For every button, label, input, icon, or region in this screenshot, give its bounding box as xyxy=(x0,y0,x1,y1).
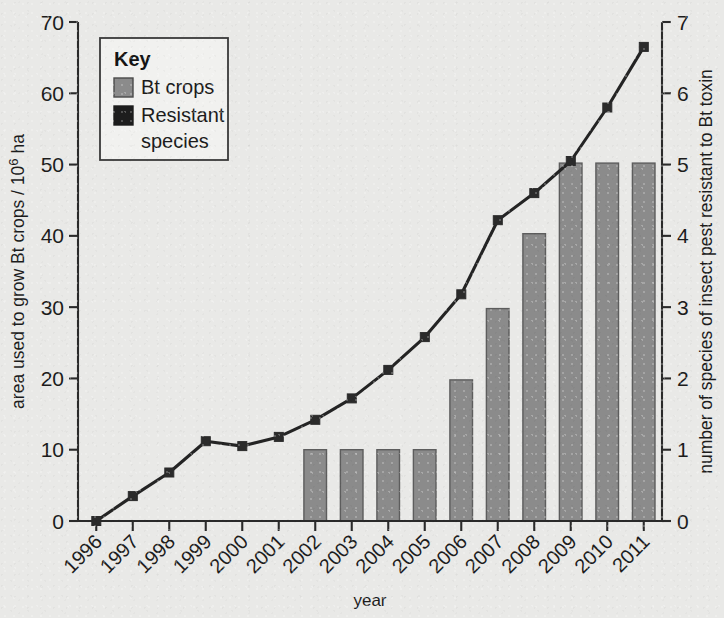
line-marker-2006 xyxy=(457,290,466,299)
x-tick-label-2002: 2002 xyxy=(278,530,325,577)
chart-figure: 0102030405060700123456719961997199819992… xyxy=(0,0,724,618)
bar-2010 xyxy=(596,163,619,521)
x-tick-label-2010: 2010 xyxy=(570,530,617,577)
x-tick-label-2000: 2000 xyxy=(205,530,252,577)
x-tick-label-2003: 2003 xyxy=(315,530,362,577)
y-tick-label-left-70: 70 xyxy=(41,11,64,34)
x-tick-label-1997: 1997 xyxy=(96,530,143,577)
line-marker-2003 xyxy=(347,394,356,403)
x-axis-title: year xyxy=(353,591,386,610)
line-marker-2001 xyxy=(274,432,283,441)
y-axis-right-title: number of species of insect pest resista… xyxy=(696,69,716,474)
x-tick-label-2004: 2004 xyxy=(351,530,398,577)
y-tick-label-left-30: 30 xyxy=(41,296,64,319)
y-tick-label-right-4: 4 xyxy=(677,224,689,247)
x-tick-label-2005: 2005 xyxy=(388,530,435,577)
y-tick-label-right-2: 2 xyxy=(677,367,689,390)
x-tick-label-1998: 1998 xyxy=(132,530,179,577)
y-tick-label-left-50: 50 xyxy=(41,153,64,176)
y-tick-label-left-60: 60 xyxy=(41,82,64,105)
line-marker-1996 xyxy=(92,517,101,526)
line-marker-2004 xyxy=(384,365,393,374)
grey-square-swatch-icon xyxy=(114,78,133,97)
line-marker-1998 xyxy=(165,468,174,477)
x-tick-label-2008: 2008 xyxy=(497,530,544,577)
legend-label-resistant-species-line2: species xyxy=(141,130,209,152)
bar-2006 xyxy=(450,380,473,521)
line-marker-1997 xyxy=(128,492,137,501)
legend-label-resistant-species: Resistant xyxy=(141,104,225,126)
line-marker-2000 xyxy=(238,442,247,451)
x-tick-label-2007: 2007 xyxy=(461,530,508,577)
y-tick-label-right-5: 5 xyxy=(677,153,689,176)
y-tick-label-right-3: 3 xyxy=(677,296,689,319)
bar-2004 xyxy=(377,450,400,521)
chart-canvas: 0102030405060700123456719961997199819992… xyxy=(0,0,724,618)
y-tick-label-left-0: 0 xyxy=(52,510,64,533)
bar-2009 xyxy=(559,163,582,521)
x-tick-label-1996: 1996 xyxy=(59,530,106,577)
bar-2002 xyxy=(304,450,327,521)
line-marker-2010 xyxy=(603,103,612,112)
line-marker-2011 xyxy=(639,42,648,51)
line-marker-2007 xyxy=(493,216,502,225)
bar-2005 xyxy=(413,450,436,521)
x-tick-label-2011: 2011 xyxy=(608,530,654,576)
line-marker-2009 xyxy=(566,157,575,166)
x-tick-label-2006: 2006 xyxy=(424,530,471,577)
x-tick-label-2009: 2009 xyxy=(534,530,581,577)
x-tick-label-2001: 2001 xyxy=(242,530,289,577)
line-marker-2005 xyxy=(420,333,429,342)
x-tick-label-1999: 1999 xyxy=(169,530,216,577)
y-tick-label-right-6: 6 xyxy=(677,82,689,105)
y-tick-label-right-1: 1 xyxy=(677,438,689,461)
y-axis-left-title: area used to grow Bt crops / 106 ha xyxy=(6,134,28,409)
legend-title: Key xyxy=(114,48,152,70)
bar-2008 xyxy=(523,234,546,521)
line-marker-2008 xyxy=(530,189,539,198)
y-tick-label-left-10: 10 xyxy=(41,438,64,461)
bar-2007 xyxy=(486,309,509,521)
line-marker-1999 xyxy=(201,437,210,446)
bar-2011 xyxy=(632,163,655,521)
line-marker-2002 xyxy=(311,415,320,424)
black-square-swatch-icon xyxy=(114,106,133,125)
legend-label-bt-crops: Bt crops xyxy=(141,76,214,98)
y-tick-label-left-20: 20 xyxy=(41,367,64,390)
y-tick-label-right-0: 0 xyxy=(677,510,689,533)
bar-2003 xyxy=(340,450,363,521)
y-tick-label-left-40: 40 xyxy=(41,224,64,247)
y-tick-label-right-7: 7 xyxy=(677,11,689,34)
